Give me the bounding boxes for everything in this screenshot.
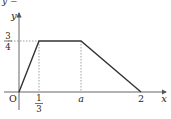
y-axis-label: y: [10, 10, 17, 21]
x-axis-label: x: [161, 93, 167, 104]
x-tick-a: a: [78, 93, 84, 104]
origin-label: O: [9, 93, 17, 104]
x-tick-one-third-numerator: 1: [36, 93, 41, 103]
x-tick-two: 2: [138, 93, 144, 104]
clipped-top-text: y =: [1, 0, 18, 6]
function-graph: [19, 41, 141, 92]
y-tick-denominator: 4: [5, 42, 10, 52]
x-tick-one-third-denominator: 3: [36, 104, 41, 114]
graph: y = y 3 4 O 1 3 a 2 x: [0, 0, 171, 119]
y-tick-numerator: 3: [5, 31, 10, 41]
